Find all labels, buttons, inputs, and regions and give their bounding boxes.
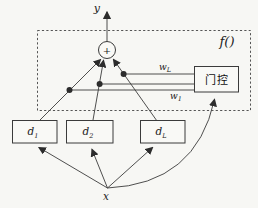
w1-sub: 1 <box>178 95 182 103</box>
gated-delay-network-diagram: + 门控 d1 d2 dL y x f() wL w1 <box>0 0 258 208</box>
wL-sub: L <box>166 66 171 74</box>
function-f-label: f() <box>219 34 235 49</box>
d1-sub: 1 <box>34 132 38 140</box>
gate-box-label: 门控 <box>205 73 229 87</box>
figure-canvas: + 门控 d1 d2 dL y x f() wL w1 <box>0 0 258 208</box>
d2-sub: 2 <box>88 132 93 140</box>
weight-wL-label: wL <box>159 62 171 74</box>
output-y-label: y <box>93 2 101 15</box>
input-x-label: x <box>103 190 109 202</box>
dL-sub: L <box>161 132 166 140</box>
x-to-d1-arrow <box>39 148 108 189</box>
summation-plus-symbol: + <box>103 45 111 56</box>
tap-dot-d1 <box>67 87 73 93</box>
tap-dot-d2 <box>97 81 103 87</box>
x-to-d2-arrow <box>92 150 108 189</box>
weight-w1-label: w1 <box>170 91 182 103</box>
tap-dot-dL <box>121 71 127 77</box>
x-to-gate-curved-arrow <box>108 100 215 189</box>
